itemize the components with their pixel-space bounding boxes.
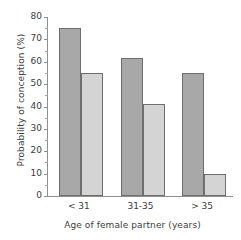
x-tick-label: > 35	[171, 201, 233, 212]
x-axis-tick-labels: < 3131-35> 35	[48, 201, 233, 215]
y-tick-major	[44, 17, 48, 18]
y-tick-major	[44, 174, 48, 175]
y-tick-label: 0	[18, 191, 42, 200]
bar-chart-figure: Probability of conception (%) 0102030405…	[0, 0, 241, 240]
y-axis-tick-labels: 01020304050607080	[18, 0, 42, 240]
y-tick-label: 30	[18, 124, 42, 133]
x-tick-label: 31-35	[110, 201, 172, 212]
y-tick-major	[44, 151, 48, 152]
y-tick-label: 10	[18, 169, 42, 178]
bar	[59, 28, 81, 196]
y-tick-label: 50	[18, 79, 42, 88]
y-tick-label: 80	[18, 12, 42, 21]
y-tick-label: 20	[18, 146, 42, 155]
y-tick-minor	[45, 118, 48, 119]
bar	[204, 174, 226, 196]
bar	[182, 73, 204, 196]
bar	[81, 73, 103, 196]
y-tick-minor	[45, 95, 48, 96]
y-tick-minor	[45, 185, 48, 186]
y-tick-minor	[45, 28, 48, 29]
bar	[121, 58, 143, 196]
y-tick-major	[44, 129, 48, 130]
y-tick-label: 70	[18, 34, 42, 43]
y-tick-major	[44, 107, 48, 108]
y-tick-minor	[45, 73, 48, 74]
y-tick-label: 60	[18, 57, 42, 66]
y-tick-major	[44, 62, 48, 63]
x-tick-label: < 31	[48, 201, 110, 212]
y-tick-major	[44, 196, 48, 197]
y-tick-minor	[45, 51, 48, 52]
y-tick-minor	[45, 140, 48, 141]
y-tick-major	[44, 39, 48, 40]
x-axis-title: Age of female partner (years)	[30, 220, 235, 230]
y-tick-minor	[45, 162, 48, 163]
y-tick-major	[44, 84, 48, 85]
bar	[143, 104, 165, 196]
x-axis-line	[47, 196, 233, 197]
y-tick-label: 40	[18, 102, 42, 111]
plot-area	[48, 17, 233, 196]
